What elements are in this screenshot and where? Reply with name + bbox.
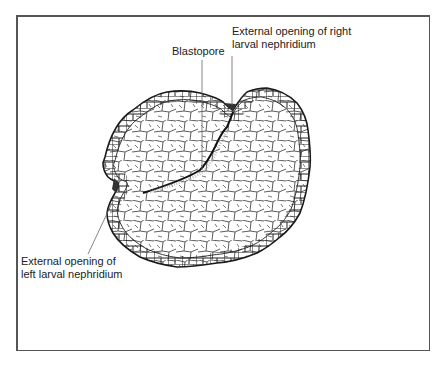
label-right-nephridium-line1: External opening of right [232, 25, 351, 38]
label-left-nephridium-line1: External opening of [21, 255, 116, 268]
leader-left-nephridium [88, 203, 112, 254]
label-left-nephridium-line2: left larval nephridium [21, 268, 123, 281]
label-blastopore: Blastopore [172, 45, 225, 58]
label-right-nephridium-line2: larval nephridium [232, 38, 316, 51]
